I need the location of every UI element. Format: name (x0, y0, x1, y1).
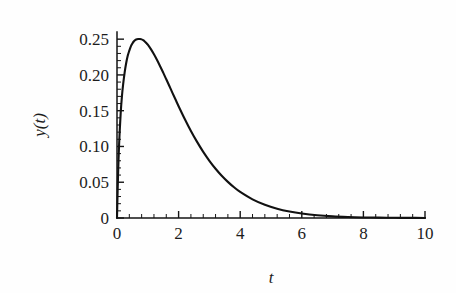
y-tick-label: 0.05 (79, 173, 109, 192)
y-tick-label: 0.10 (79, 137, 109, 156)
x-tick-label: 2 (174, 224, 183, 243)
x-axis-title: t (269, 268, 275, 287)
y-tick-label: 0.20 (79, 66, 109, 85)
x-tick-label: 6 (298, 224, 307, 243)
y-tick-label: 0.25 (79, 30, 109, 49)
data-series-group (117, 39, 425, 218)
y-tick-label: 0.15 (79, 102, 109, 121)
x-tick-label: 0 (113, 224, 122, 243)
axis-lines (117, 32, 425, 218)
x-axis-tick-labels: 0246810 (113, 224, 434, 243)
y-axis-title: y(t) (30, 113, 49, 139)
x-tick-label: 8 (359, 224, 368, 243)
figure-canvas: 0246810 00.050.100.150.200.25 t y(t) (0, 0, 456, 293)
x-tick-label: 10 (417, 224, 434, 243)
y-tick-label: 0 (101, 209, 110, 228)
series-line-0 (117, 39, 425, 218)
line-chart: 0246810 00.050.100.150.200.25 t y(t) (0, 0, 456, 293)
y-axis-tick-labels: 00.050.100.150.200.25 (79, 30, 109, 228)
x-tick-label: 4 (236, 224, 245, 243)
